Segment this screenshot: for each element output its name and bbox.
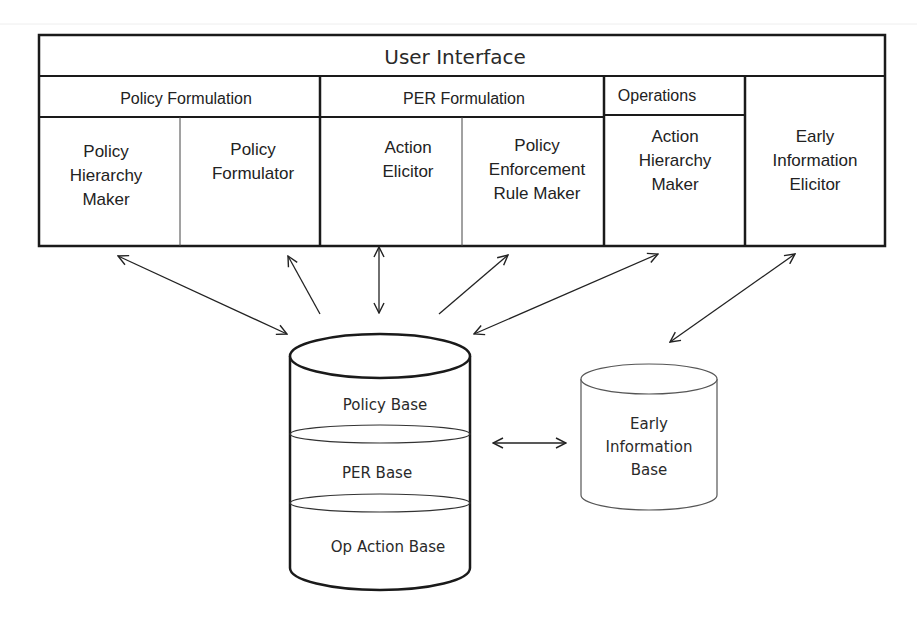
component-text: Elicitor	[382, 162, 433, 181]
component-text: Policy	[230, 140, 276, 159]
layer-per-base: PER Base	[342, 464, 412, 482]
component-text: Action	[384, 138, 431, 157]
layer-op-action-base: Op Action Base	[331, 538, 445, 556]
main-database-cylinder: Policy Base PER Base Op Action Base	[290, 334, 470, 590]
user-interface-box: User Interface Policy Formulation PER Fo…	[39, 35, 885, 246]
early-information-database-cylinder: Early Information Base	[581, 364, 717, 510]
component-text: Action	[651, 127, 698, 146]
component-text: Hierarchy	[639, 151, 712, 170]
db-label-line: Information	[606, 438, 693, 456]
component-text: Policy	[514, 136, 560, 155]
arrow-up-right-icon	[439, 255, 508, 314]
component-text: Formulator	[212, 164, 295, 183]
double-arrow-icon	[474, 254, 658, 334]
group-label-operations: Operations	[618, 87, 696, 104]
group-label-policy-formulation: Policy Formulation	[120, 90, 252, 107]
double-arrow-icon	[118, 256, 287, 334]
component-text: Maker	[651, 175, 699, 194]
double-arrow-icon	[670, 254, 795, 342]
component-text: Enforcement	[489, 160, 586, 179]
architecture-diagram: User Interface Policy Formulation PER Fo…	[0, 0, 917, 618]
component-text: Hierarchy	[70, 166, 143, 185]
component-text: Elicitor	[789, 175, 840, 194]
db-label-line: Early	[630, 415, 668, 433]
layer-policy-base: Policy Base	[343, 396, 427, 414]
db-label-line: Base	[631, 461, 668, 479]
cylinder-top	[581, 364, 717, 394]
component-text: Early	[796, 127, 835, 146]
component-text: Policy	[83, 142, 129, 161]
group-label-per-formulation: PER Formulation	[403, 90, 525, 107]
component-text: Information	[772, 151, 857, 170]
arrow-up-icon	[288, 256, 320, 314]
component-text: Rule Maker	[494, 184, 581, 203]
component-text: Maker	[82, 190, 130, 209]
user-interface-title: User Interface	[384, 45, 525, 69]
cylinder-top	[290, 334, 470, 378]
